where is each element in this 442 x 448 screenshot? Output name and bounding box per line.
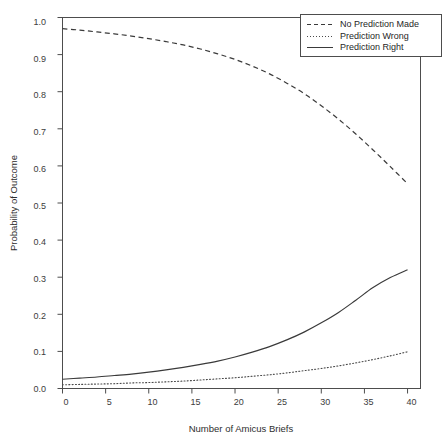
x-tick-label: 20: [234, 398, 244, 407]
chart-legend: No Prediction Made Prediction Wrong Pred…: [300, 14, 442, 57]
solid-line-icon: [307, 42, 333, 53]
y-tick-label: 0.0: [22, 385, 46, 394]
y-tick-label: 0.2: [22, 311, 46, 320]
y-tick-label: 0.9: [22, 54, 46, 63]
y-tick-label: 0.4: [22, 238, 46, 247]
x-tick-label: 35: [363, 398, 373, 407]
y-tick-label: 0.1: [22, 348, 46, 357]
x-tick-label: 40: [407, 398, 417, 407]
legend-label: Prediction Wrong: [340, 31, 409, 42]
y-tick-label: 0.6: [22, 164, 46, 173]
dotted-line-icon: [307, 31, 333, 42]
legend-item-no-prediction-made: No Prediction Made: [301, 19, 441, 31]
plot-panel: [62, 17, 421, 389]
x-axis-title: Number of Amicus Briefs: [189, 424, 294, 434]
y-tick-label: 1.0: [22, 18, 46, 27]
y-tick-label: 0.7: [22, 128, 46, 137]
y-tick-label: 0.3: [22, 274, 46, 283]
dashed-line-icon: [307, 19, 333, 30]
y-tick-label: 0.5: [22, 201, 46, 210]
x-tick-label: 5: [107, 398, 112, 407]
y-tick-label: 0.8: [22, 91, 46, 100]
legend-item-prediction-right: Prediction Right: [301, 42, 441, 54]
x-tick-label: 30: [320, 398, 330, 407]
y-axis-title: Probability of Outcome: [9, 155, 19, 251]
legend-label: No Prediction Made: [340, 19, 419, 30]
x-tick-label: 0: [63, 398, 68, 407]
legend-item-prediction-wrong: Prediction Wrong: [301, 31, 441, 43]
x-tick-label: 10: [147, 398, 157, 407]
legend-label: Prediction Right: [340, 42, 404, 53]
x-tick-label: 25: [277, 398, 287, 407]
x-tick-label: 15: [191, 398, 201, 407]
